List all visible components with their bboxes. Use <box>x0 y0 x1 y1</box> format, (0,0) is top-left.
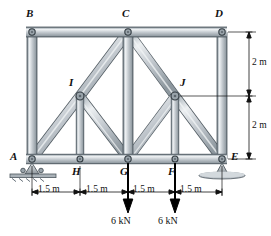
joint-pin-E <box>219 156 225 162</box>
joint-pin-I <box>76 92 84 100</box>
pin-support-A <box>10 163 56 182</box>
dim-label-G-F: 1.5 m <box>133 185 155 195</box>
joint-pin-F <box>172 156 178 162</box>
joint-label-A: A <box>10 151 17 162</box>
diagonal-IG <box>79 96 128 160</box>
joint-label-F: F <box>168 166 175 177</box>
vertical-JF <box>171 96 179 159</box>
vertical-members <box>27 32 228 159</box>
diagonal-CJ <box>127 31 176 97</box>
diagonal-AI <box>32 95 81 160</box>
vertical-IH <box>76 96 84 159</box>
dim-label-A-H: 1.5 m <box>38 185 60 195</box>
dim-label-bottom-2m: 2 m <box>252 121 267 131</box>
truss-figure: B C D A E H G F I J 1.5 m 1.5 m 1.5 m 1.… <box>0 0 271 236</box>
vertical-AB <box>27 32 38 159</box>
vertical-CG <box>123 32 134 159</box>
joint-label-C: C <box>122 8 129 19</box>
dim-label-H-G: 1.5 m <box>86 185 108 195</box>
load-label-F: 6 kN <box>158 216 178 226</box>
truss-diagram-canvas <box>0 0 271 236</box>
diagonal-JE <box>174 95 223 160</box>
joint-pin-B <box>29 29 35 35</box>
dim-label-F-E: 1.5 m <box>180 185 202 195</box>
joint-pin-G <box>125 156 131 162</box>
vertical-DE <box>217 32 228 159</box>
joint-label-I: I <box>69 77 73 88</box>
joint-pin-A <box>29 156 35 162</box>
joint-label-B: B <box>26 8 33 19</box>
joint-pin-C <box>125 29 131 35</box>
joint-label-D: D <box>215 8 223 19</box>
joint-label-H: H <box>72 166 81 177</box>
joint-label-E: E <box>231 151 238 162</box>
dim-label-top-2m: 2 m <box>252 58 267 68</box>
diagonal-IC <box>80 31 129 97</box>
joint-pin-H <box>77 156 83 162</box>
load-label-G: 6 kN <box>111 216 131 226</box>
joint-label-G: G <box>120 166 128 177</box>
joint-pin-J <box>171 92 179 100</box>
joint-pin-D <box>219 29 225 35</box>
joint-label-J: J <box>180 77 186 88</box>
diagonal-JG <box>128 96 176 160</box>
